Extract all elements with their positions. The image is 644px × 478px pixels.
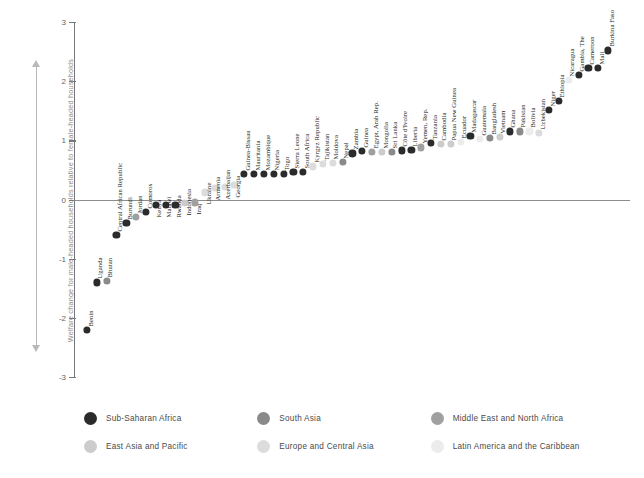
data-point[interactable]: [585, 65, 592, 72]
data-point[interactable]: [408, 146, 415, 153]
data-point[interactable]: [270, 170, 277, 177]
data-point-label: Pakistan: [519, 105, 526, 128]
data-point[interactable]: [378, 149, 385, 156]
data-point-label: Comoros: [145, 184, 152, 209]
data-point[interactable]: [418, 144, 425, 151]
data-point-label: Sierra Leone: [293, 133, 300, 168]
y-tick: [69, 22, 76, 23]
data-point-label: Sri Lanka: [391, 122, 398, 149]
data-point[interactable]: [300, 168, 307, 175]
data-point-label: Burundi: [125, 197, 132, 219]
data-point[interactable]: [123, 220, 130, 227]
data-point-label: Mongolia: [381, 122, 388, 148]
data-point-label: Ghana: [509, 110, 516, 128]
data-point[interactable]: [496, 133, 503, 140]
data-point[interactable]: [595, 65, 602, 72]
legend-item-sa[interactable]: South Asia: [257, 404, 430, 432]
data-point-label: Iraq: [194, 204, 201, 215]
data-point-label: Guinea-Bissau: [243, 130, 250, 170]
data-point[interactable]: [398, 147, 405, 154]
data-point[interactable]: [388, 149, 395, 156]
data-point-label: Kenya: [155, 200, 162, 218]
data-point[interactable]: [545, 106, 552, 113]
data-point[interactable]: [486, 134, 493, 141]
data-point[interactable]: [447, 140, 454, 147]
data-point-label: Yemen, Rep.: [420, 109, 427, 144]
legend-label: Sub-Saharan Africa: [106, 414, 182, 423]
y-tick: [69, 140, 76, 141]
data-point-label: Nicaragua: [568, 48, 575, 76]
legend-item-mena[interactable]: Middle East and North Africa: [431, 404, 604, 432]
data-point-label: Ecuador: [460, 115, 467, 138]
data-point-label: Rwanda: [175, 195, 182, 217]
data-point[interactable]: [319, 160, 326, 167]
data-point[interactable]: [133, 214, 140, 221]
y-tick-label: -2: [59, 313, 66, 322]
legend-item-ssa[interactable]: Sub-Saharan Africa: [84, 404, 257, 432]
data-point-label: Georgia: [234, 175, 241, 197]
data-point-label: Mali: [597, 52, 604, 65]
data-point[interactable]: [359, 147, 366, 154]
data-point[interactable]: [604, 47, 611, 54]
data-point[interactable]: [93, 279, 100, 286]
data-point[interactable]: [349, 150, 356, 157]
data-point-label: Mauritania: [253, 141, 260, 171]
data-point-label: Nigeria: [273, 150, 280, 170]
legend-item-eap[interactable]: East Asia and Pacific: [84, 432, 257, 460]
data-point-label: Bhutan: [106, 257, 113, 277]
legend-item-lac[interactable]: Latin America and the Caribbean: [431, 432, 604, 460]
legend-swatch-icon: [257, 440, 270, 453]
data-point[interactable]: [103, 277, 110, 284]
data-point[interactable]: [457, 138, 464, 145]
data-point[interactable]: [251, 170, 258, 177]
data-point[interactable]: [536, 129, 543, 136]
data-point[interactable]: [575, 72, 582, 79]
data-point-label: Jordan: [135, 196, 142, 214]
data-point-label: Papua New Guinea: [450, 88, 457, 141]
data-point[interactable]: [113, 231, 120, 238]
legend-item-eca[interactable]: Europe and Central Asia: [257, 432, 430, 460]
y-tick-label: -3: [59, 373, 66, 382]
data-point-label: Zambia: [352, 129, 359, 150]
data-point-label: Liberia: [410, 127, 417, 147]
data-point[interactable]: [142, 208, 149, 215]
data-point-label: Ethiopia: [558, 75, 565, 98]
data-point[interactable]: [467, 132, 474, 139]
data-point-label: Ukraine: [204, 183, 211, 205]
y-tick-label: -1: [59, 254, 66, 263]
data-point[interactable]: [555, 98, 562, 105]
data-point[interactable]: [477, 136, 484, 143]
data-point-label: Indonesia: [184, 189, 191, 216]
data-point[interactable]: [437, 140, 444, 147]
legend-label: Latin America and the Caribbean: [453, 442, 580, 451]
legend-swatch-icon: [257, 412, 270, 425]
data-point[interactable]: [310, 163, 317, 170]
y-tick: [69, 81, 76, 82]
data-point-label: Kyrgyz Republic: [312, 116, 319, 163]
data-point[interactable]: [290, 168, 297, 175]
data-point[interactable]: [427, 139, 434, 146]
legend-label: East Asia and Pacific: [106, 442, 188, 451]
data-point[interactable]: [526, 128, 533, 135]
data-point-label: Central African Republic: [116, 163, 123, 232]
legend-label: Middle East and North Africa: [453, 414, 564, 423]
y-tick: [69, 318, 76, 319]
data-point-label: Tajikistan: [322, 134, 329, 161]
data-point[interactable]: [329, 159, 336, 166]
data-point-label: Togo: [283, 157, 290, 171]
data-point-label: Moldova: [332, 135, 339, 160]
data-point-label: Tanzania: [430, 115, 437, 140]
data-point[interactable]: [516, 128, 523, 135]
data-point[interactable]: [241, 170, 248, 177]
data-point[interactable]: [565, 76, 572, 83]
data-point[interactable]: [280, 170, 287, 177]
data-point[interactable]: [260, 170, 267, 177]
data-point[interactable]: [83, 326, 90, 333]
data-point-label: South Africa: [302, 133, 309, 168]
y-tick-label: 0: [62, 195, 66, 204]
y-tick-label: 2: [62, 77, 66, 86]
data-point[interactable]: [368, 149, 375, 156]
data-point[interactable]: [339, 158, 346, 165]
data-point-label: Guinea: [361, 128, 368, 148]
data-point[interactable]: [506, 128, 513, 135]
